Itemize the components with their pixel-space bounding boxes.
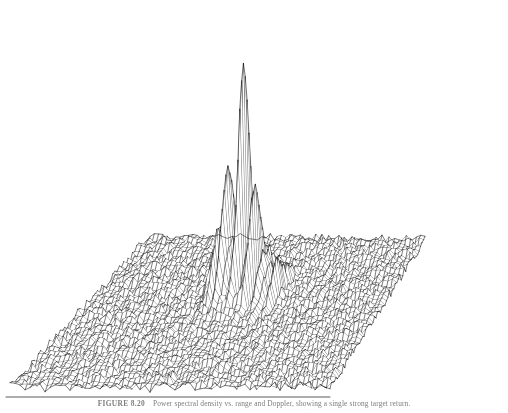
figure-caption: FIGURE 8.20 Power spectral density vs. r…: [0, 399, 508, 408]
power-spectral-density-surface-plot: [0, 0, 508, 413]
figure-container: FIGURE 8.20 Power spectral density vs. r…: [0, 0, 508, 413]
figure-number-label: FIGURE 8.20: [98, 399, 145, 408]
figure-caption-text: Power spectral density vs. range and Dop…: [153, 399, 410, 408]
